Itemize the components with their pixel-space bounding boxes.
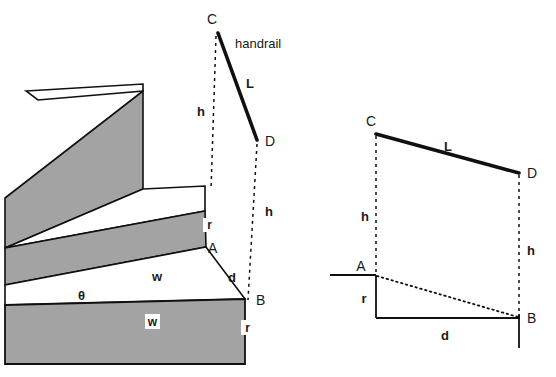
left-point-d-label: D — [265, 133, 275, 149]
left-diagram: C D A B handrail L h h d θ w r w r — [5, 11, 281, 364]
diagram-canvas: C D A B handrail L h h d θ w r w r — [0, 0, 556, 377]
left-tread-lower-chip: w — [145, 314, 160, 329]
left-point-c-label: C — [207, 11, 217, 27]
handrail-word-label: handrail — [235, 36, 281, 51]
left-riser-upper-label: r — [207, 218, 212, 232]
right-point-a-label: A — [356, 258, 366, 274]
right-run-label: d — [441, 328, 449, 343]
height-upper-dashed-left — [211, 36, 216, 190]
right-height-right-label: h — [527, 243, 535, 258]
left-diagonal-label: d — [228, 270, 236, 285]
left-riser-lower-chip: r — [241, 320, 254, 335]
lower-riser-block — [5, 299, 245, 364]
right-rail-length-label: L — [444, 139, 452, 154]
figure-root: C D A B handrail L h h d θ w r w r — [0, 0, 556, 377]
left-riser-upper-chip: r — [203, 218, 216, 232]
left-tread-lower-label: w — [147, 315, 158, 329]
left-rail-length-label: L — [246, 76, 254, 91]
left-tread-upper-label: w — [151, 269, 163, 284]
right-point-d-label: D — [527, 165, 537, 181]
right-riser-label: r — [361, 291, 366, 306]
diagonal-dotted-right — [377, 276, 518, 317]
left-riser-lower-label: r — [245, 321, 250, 335]
upper-step-sliver — [26, 84, 143, 100]
left-height-upper-label: h — [197, 104, 205, 119]
left-point-b-label: B — [256, 292, 265, 308]
left-angle-label: θ — [78, 288, 85, 303]
right-point-b-label: B — [527, 310, 536, 326]
height-lower-dashed-left — [248, 144, 257, 300]
left-point-a-label: A — [208, 240, 218, 256]
right-point-c-label: C — [366, 113, 376, 129]
left-height-lower-label: h — [265, 204, 273, 219]
right-diagram: C D A B L h h r d — [330, 113, 537, 348]
right-height-left-label: h — [361, 209, 369, 224]
